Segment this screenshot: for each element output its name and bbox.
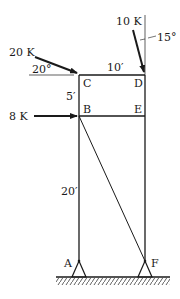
node-label-f: F bbox=[151, 257, 159, 270]
node-label-d: D bbox=[134, 77, 143, 90]
load-d-arrow: 10 K 15° bbox=[116, 15, 177, 75]
node-label-c: C bbox=[83, 77, 91, 90]
pin-support-a bbox=[72, 260, 86, 277]
load-c-magnitude: 20 K bbox=[9, 46, 35, 59]
ground bbox=[56, 277, 170, 285]
frame-diagram: 20 K 20° 10 K 15° 8 K C D B E A F 10′ 5′… bbox=[0, 0, 180, 299]
angle-leader bbox=[148, 36, 156, 38]
pin-support-icon bbox=[138, 261, 152, 277]
pin-support-f bbox=[138, 260, 152, 277]
angle-tick-icon bbox=[140, 39, 145, 40]
load-d-magnitude: 10 K bbox=[116, 15, 142, 28]
load-b-magnitude: 8 K bbox=[9, 110, 28, 123]
node-label-a: A bbox=[63, 257, 73, 270]
load-d-angle: 15° bbox=[157, 31, 177, 44]
dimension-bc: 5′ bbox=[66, 90, 76, 103]
node-label-b: B bbox=[83, 103, 91, 116]
member-bf-diagonal bbox=[79, 116, 145, 261]
load-b-arrow: 8 K bbox=[9, 110, 77, 123]
ground-hatch-icon bbox=[56, 278, 170, 285]
load-c-arrow: 20 K 20° bbox=[9, 46, 77, 76]
dimension-ab: 20′ bbox=[61, 185, 78, 198]
pin-support-icon bbox=[72, 261, 86, 277]
arrow-10k bbox=[133, 30, 144, 72]
load-c-angle: 20° bbox=[32, 63, 52, 76]
dimension-cd: 10′ bbox=[107, 61, 124, 74]
node-label-e: E bbox=[134, 103, 142, 116]
